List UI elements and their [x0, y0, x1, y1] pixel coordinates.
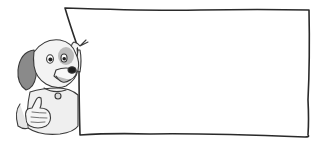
dog-head	[34, 40, 79, 88]
sign-text	[95, 20, 295, 125]
illustration	[0, 0, 322, 147]
dog-character	[16, 40, 88, 135]
dog-tag	[55, 93, 61, 99]
dog-nose	[68, 67, 76, 73]
